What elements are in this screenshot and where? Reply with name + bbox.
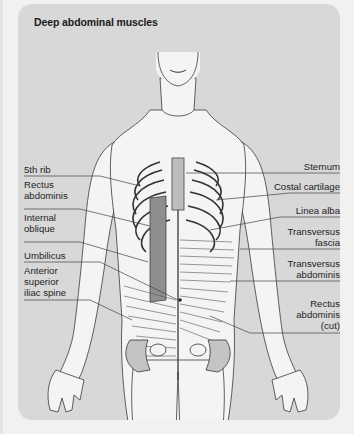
label-umbilicus: Umbilicus bbox=[24, 250, 66, 261]
label-transversus-abdominis: Transversus abdominis bbox=[288, 258, 340, 280]
label-linea-alba: Linea alba bbox=[296, 205, 340, 216]
label-internal-oblique: Internal oblique bbox=[24, 212, 56, 234]
rectus-abdominis-muscle bbox=[150, 196, 166, 302]
label-costal-cartilage: Costal cartilage bbox=[274, 181, 340, 192]
chin bbox=[156, 52, 200, 84]
neck bbox=[160, 78, 196, 116]
sternum-bone bbox=[172, 158, 184, 210]
label-5th-rib: 5th rib bbox=[24, 164, 51, 175]
label-rectus-abdominis: Rectus abdominis bbox=[24, 179, 68, 201]
label-anterior-superior-iliac-spine: Anterior superior iliac spine bbox=[24, 265, 66, 298]
umbilicus-mark bbox=[178, 298, 182, 302]
label-rectus-abdominis-cut: Rectus abdominis (cut) bbox=[296, 298, 340, 331]
label-transversus-fascia: Transversus fascia bbox=[288, 226, 340, 248]
label-sternum: Sternum bbox=[304, 161, 340, 172]
